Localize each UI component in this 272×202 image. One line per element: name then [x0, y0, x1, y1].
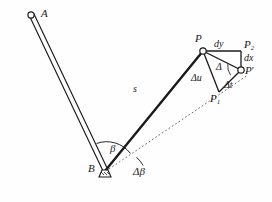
- label-dy: dy: [214, 39, 223, 49]
- label-point-a: A: [41, 8, 48, 19]
- label-point-b: B: [88, 163, 95, 174]
- displacement-detail: [203, 51, 241, 92]
- label-point-p1-sub: 1: [217, 98, 220, 105]
- label-point-p1-base: P: [210, 92, 217, 104]
- arm-a-b: [29, 14, 108, 171]
- pivot-b-base: [99, 170, 111, 177]
- label-segment-s: s: [133, 84, 137, 94]
- arm-a-b-edge-left: [29, 15, 103, 171]
- label-angle-delta-beta: Δβ: [133, 166, 145, 177]
- label-point-p2-base: P: [244, 38, 251, 50]
- label-delta: Δ: [216, 62, 222, 72]
- label-delta-t: Δt: [224, 80, 233, 90]
- point-p-prime-marker: [238, 67, 244, 73]
- label-point-p: P: [195, 33, 202, 44]
- arm-a-b-edge-right: [34, 14, 108, 170]
- label-point-p1: P1: [210, 93, 220, 105]
- label-point-p-prime-base: P: [245, 64, 252, 76]
- label-point-p2: P2: [244, 39, 254, 51]
- label-point-p-prime-tick: ′: [252, 64, 254, 76]
- segment-b-p: [105, 51, 203, 171]
- label-angle-beta: β: [110, 143, 115, 154]
- point-p-marker: [200, 48, 206, 54]
- label-point-p2-sub: 2: [251, 44, 254, 51]
- point-a-marker: [28, 12, 34, 18]
- label-point-p-prime: P′: [245, 65, 254, 76]
- angle-arc-delta: [228, 64, 231, 75]
- label-delta-u: Δu: [191, 73, 202, 83]
- point-a-circle: [28, 12, 34, 18]
- label-dx: dx: [244, 53, 253, 63]
- geometry-figure: A B P P′ P2 P1 s dy dx Δu Δt Δ β Δβ: [0, 0, 272, 202]
